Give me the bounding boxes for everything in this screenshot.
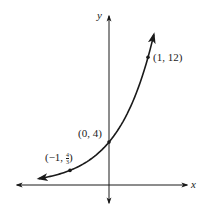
point-label-neg1-prefix: (−1, <box>45 151 66 163</box>
point-label-1-12: (1, 12) <box>153 52 182 63</box>
point-label-neg1: (−1, 43) <box>45 152 73 165</box>
point-neg1 <box>68 169 72 173</box>
y-axis-label: y <box>97 10 102 21</box>
point-label-0-4: (0, 4) <box>78 128 102 139</box>
x-axis-label: x <box>191 179 196 190</box>
point-0 <box>107 140 111 144</box>
graph-canvas <box>0 0 205 220</box>
point-1 <box>146 56 150 60</box>
point-label-neg1-suffix: ) <box>69 151 73 163</box>
